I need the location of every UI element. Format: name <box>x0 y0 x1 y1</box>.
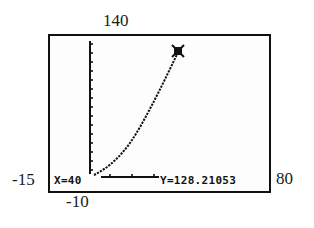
graph-plot <box>50 36 269 191</box>
ymax-label: 140 <box>103 12 129 29</box>
xmin-label: -15 <box>12 171 35 188</box>
calculator-screen: X=40 Y=128.21053 <box>48 34 271 193</box>
ymin-label: -10 <box>66 193 89 210</box>
xmax-label: 80 <box>276 170 293 187</box>
function-curve <box>94 48 180 175</box>
y-readout: Y=128.21053 <box>160 175 236 186</box>
x-readout: X=40 <box>54 175 82 186</box>
